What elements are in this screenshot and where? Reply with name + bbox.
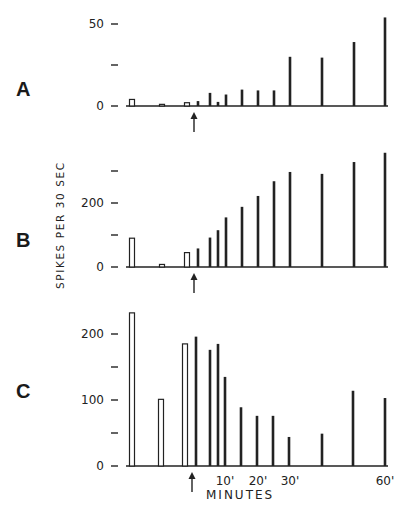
filled-bar — [273, 90, 276, 106]
y-tick-label: 0 — [96, 459, 104, 473]
open-bar — [183, 344, 188, 466]
x-tick-label: 60' — [376, 474, 395, 488]
filled-bar — [272, 416, 275, 466]
filled-bar — [257, 196, 260, 267]
filled-bar — [289, 172, 292, 267]
panel-b-plot: 0200 — [81, 153, 388, 293]
y-axis-label: SPIKES PER 30 SEC — [54, 161, 66, 289]
x-axis-label: MINUTES — [206, 488, 274, 502]
filled-bar — [353, 42, 356, 106]
y-tick-label: 50 — [89, 17, 104, 31]
x-tick-label: 30' — [281, 474, 300, 488]
filled-bar — [225, 217, 228, 267]
filled-bar — [241, 90, 244, 106]
open-bar — [130, 99, 135, 106]
y-tick-label: 200 — [81, 327, 104, 341]
filled-bar — [209, 350, 212, 466]
filled-bar — [195, 337, 198, 466]
open-bar — [160, 264, 165, 267]
panel-a-plot: 050 — [89, 17, 388, 132]
filled-bar — [384, 153, 387, 267]
open-bar — [185, 103, 190, 106]
filled-bar — [288, 437, 291, 466]
panel-letter-a: A — [16, 78, 30, 100]
filled-bar — [384, 17, 387, 106]
filled-bar — [217, 344, 220, 466]
stimulus-arrow-icon — [189, 472, 196, 479]
y-tick-label: 0 — [96, 260, 104, 274]
filled-bar — [384, 398, 387, 466]
filled-bar — [321, 58, 324, 106]
filled-bar — [273, 181, 276, 267]
filled-bar — [197, 101, 200, 106]
filled-bar — [224, 377, 227, 466]
stimulus-arrow-icon — [191, 112, 198, 119]
y-tick-label: 200 — [81, 196, 104, 210]
filled-bar — [321, 174, 324, 267]
filled-bar — [256, 416, 259, 466]
open-bar — [159, 399, 164, 466]
filled-bar — [209, 93, 212, 106]
open-bar — [130, 238, 135, 267]
open-bar — [160, 104, 165, 106]
x-tick-label: 20' — [249, 474, 268, 488]
filled-bar — [217, 230, 220, 267]
filled-bar — [241, 207, 244, 267]
panel-letter-b: B — [16, 229, 30, 251]
filled-bar — [217, 102, 220, 106]
open-bar — [185, 253, 190, 267]
filled-bar — [321, 434, 324, 466]
panel-c-plot: 0100200 — [81, 313, 388, 492]
stimulus-arrow-icon — [191, 273, 198, 280]
filled-bar — [197, 248, 200, 267]
y-tick-label: 100 — [81, 393, 104, 407]
y-tick-label: 0 — [96, 99, 104, 113]
filled-bar — [209, 238, 212, 267]
x-tick-label: 10' — [216, 474, 235, 488]
panel-letter-c: C — [16, 380, 30, 402]
filled-bar — [257, 90, 260, 106]
filled-bar — [240, 407, 243, 466]
filled-bar — [353, 162, 356, 267]
open-bar — [130, 313, 135, 466]
x-tick-labels: 10'20'30'60' — [216, 474, 395, 488]
filled-bar — [352, 391, 355, 466]
filled-bar — [225, 95, 228, 106]
filled-bar — [289, 57, 292, 106]
spike-rate-figure: A B C SPIKES PER 30 SEC 050 0200 0100200… — [0, 0, 402, 510]
